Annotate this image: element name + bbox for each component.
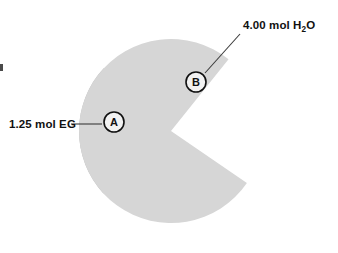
label-water-main: 4.00 mol H [243,19,302,31]
marker-b-letter: B [192,76,200,88]
marker-a-letter: A [110,116,118,128]
figure-canvas: A B 1.25 mol EG 4.00 mol H2O [0,0,338,253]
page-edge-mark [0,64,3,71]
label-eg-amount: 1.25 mol EG [9,118,76,130]
pie-chart-figure: A B 1.25 mol EG 4.00 mol H2O [0,0,338,253]
slice-marker-b[interactable]: B [186,72,206,92]
slice-marker-a[interactable]: A [104,112,124,132]
label-water-tail: O [306,19,315,31]
